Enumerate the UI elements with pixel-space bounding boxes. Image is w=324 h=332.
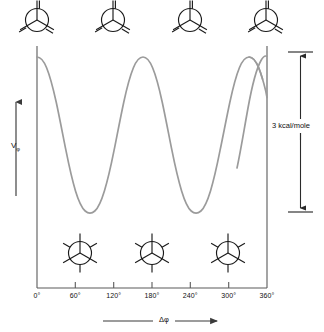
energy-curve-end-rise <box>237 56 267 168</box>
staggered-conformer-row <box>63 234 245 273</box>
x-tick-label-0: 0° <box>34 292 41 299</box>
newman-eclipsed-120-icon <box>95 1 130 34</box>
y-axis-label: Vφ <box>11 141 20 152</box>
newman-staggered-60-icon <box>63 234 97 273</box>
barrier-measure-group <box>286 52 316 212</box>
x-tick-label-120: 120° <box>106 292 121 299</box>
newman-staggered-300-icon <box>211 234 245 273</box>
x-axis-ticks <box>75 282 228 288</box>
newman-eclipsed-360-icon <box>248 1 283 34</box>
barrier-label: 3 kcal/mole <box>272 121 310 130</box>
x-tick-label-300: 300° <box>221 292 236 299</box>
figure-canvas <box>0 0 324 332</box>
newman-eclipsed-0-icon <box>19 1 54 34</box>
eclipsed-conformer-row <box>19 1 283 34</box>
newman-staggered-180-icon <box>135 234 169 273</box>
x-tick-label-180: 180° <box>145 292 160 299</box>
x-tick-label-240: 240° <box>183 292 198 299</box>
y-axis-label-sub: φ <box>16 146 20 152</box>
torsional-energy-figure: 0° 60° 120° 180° 240° 300° 360° Δφ Vφ 3 … <box>0 0 324 332</box>
x-axis-caption: Δφ <box>159 315 169 324</box>
newman-eclipsed-240-icon <box>172 1 207 34</box>
energy-curve-path <box>37 57 267 213</box>
x-tick-label-60: 60° <box>70 292 81 299</box>
energy-curve <box>37 56 267 213</box>
x-tick-label-360: 360° <box>260 292 275 299</box>
